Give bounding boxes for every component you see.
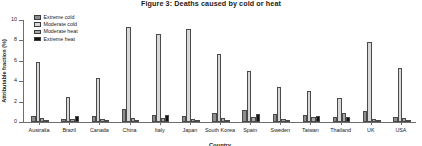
bar-group: [333, 20, 351, 122]
bar: [316, 116, 320, 122]
y-axis-tick-label: 8: [3, 38, 17, 43]
y-axis-tick-label: 4: [3, 79, 17, 84]
bar: [406, 120, 410, 122]
bar: [156, 34, 160, 122]
x-axis-tick-label: USA: [379, 127, 422, 133]
y-axis-label: Attributable fraction (%): [2, 39, 8, 103]
bar: [376, 120, 380, 122]
plot-area: Attributable fraction (%) Country 108642…: [24, 20, 416, 122]
bar: [96, 78, 100, 122]
bar: [225, 120, 229, 122]
x-axis-tick: [130, 122, 131, 125]
bar-group: [31, 20, 49, 122]
bar: [256, 114, 260, 122]
x-axis-tick: [160, 122, 161, 125]
x-axis-tick: [371, 122, 372, 125]
x-axis-tick: [310, 122, 311, 125]
bar: [135, 120, 139, 122]
bar-group: [363, 20, 381, 122]
bar-group: [182, 20, 200, 122]
y-axis-tick: [19, 81, 23, 82]
bar: [75, 116, 79, 122]
x-axis-tick: [220, 122, 221, 125]
bar: [165, 115, 169, 122]
x-axis-tick: [99, 122, 100, 125]
bar: [44, 120, 48, 122]
figure-title: Figure 3: Deaths caused by cold or heat: [0, 0, 422, 8]
bar-group: [122, 20, 140, 122]
bar: [277, 87, 281, 122]
bar: [247, 71, 251, 122]
bar: [367, 42, 371, 122]
bar: [126, 27, 130, 122]
y-axis-line: [23, 20, 24, 123]
bar-group: [61, 20, 79, 122]
x-axis-tick: [69, 122, 70, 125]
y-axis-tick-label: 10: [3, 17, 17, 22]
y-axis-tick-label: 6: [3, 58, 17, 63]
y-axis-tick: [19, 102, 23, 103]
bar-group: [92, 20, 110, 122]
x-axis-tick: [39, 122, 40, 125]
bar-group: [152, 20, 170, 122]
bar-group: [242, 20, 260, 122]
y-axis-tick-label: 0: [3, 119, 17, 124]
x-axis-tick: [341, 122, 342, 125]
x-axis-tick: [280, 122, 281, 125]
y-axis-tick-label: 2: [3, 99, 17, 104]
y-axis-tick: [19, 61, 23, 62]
bar-group: [393, 20, 411, 122]
figure-container: Figure 3: Deaths caused by cold or heat …: [0, 0, 422, 146]
x-axis-tick: [250, 122, 251, 125]
bar: [105, 120, 109, 122]
bar: [398, 68, 402, 122]
bar-group: [212, 20, 230, 122]
bar-group: [273, 20, 291, 122]
bar: [286, 120, 290, 122]
bar-group: [303, 20, 321, 122]
x-axis-tick: [190, 122, 191, 125]
y-axis-tick: [19, 20, 23, 21]
x-axis-tick: [401, 122, 402, 125]
bar: [346, 117, 350, 122]
bar: [217, 54, 221, 122]
bar: [36, 62, 40, 122]
y-axis-tick: [19, 40, 23, 41]
bar: [186, 29, 190, 122]
x-axis-label: Country: [24, 142, 416, 146]
y-axis-tick: [19, 122, 23, 123]
bar: [195, 120, 199, 122]
